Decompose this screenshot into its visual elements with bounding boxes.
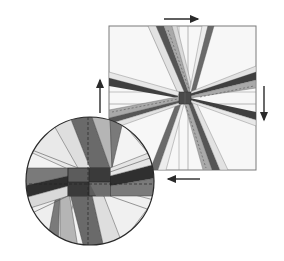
quilt-diagram [0,0,284,261]
diagram-canvas [0,0,284,261]
circle-detail [24,117,156,248]
